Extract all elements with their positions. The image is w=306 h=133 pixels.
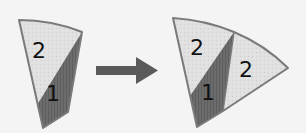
diagram-canvas: 2 1 2 1 2 <box>0 0 306 133</box>
after-label-2-left: 2 <box>190 35 204 60</box>
right-arrow-icon <box>96 57 158 84</box>
after-label-2-right: 2 <box>239 57 253 82</box>
after-wedge: 2 1 2 <box>173 18 288 127</box>
before-label-1: 1 <box>46 81 60 106</box>
after-label-1: 1 <box>201 80 215 105</box>
before-wedge: 2 1 <box>19 20 82 128</box>
before-label-2: 2 <box>32 38 46 63</box>
